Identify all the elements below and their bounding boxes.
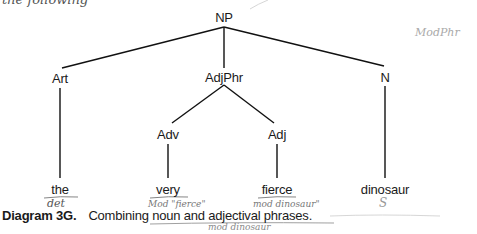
leaf-the: the	[51, 182, 68, 197]
handwritten-s: S	[379, 196, 387, 210]
leaf-very: very	[156, 182, 180, 197]
node-adjphr: AdjPhr	[205, 70, 243, 85]
node-n: N	[380, 70, 389, 85]
caption-label: Diagram 3G.	[2, 208, 76, 223]
caption-text: Combining noun and adjectival phrases.	[88, 208, 312, 223]
syntax-tree-diagram: the following NP Art AdjPhr N Adv Adj th…	[0, 0, 477, 234]
edge-np-art	[62, 27, 224, 68]
edge-adjphr-adv	[172, 85, 224, 123]
underline-very	[150, 197, 188, 198]
node-np: NP	[215, 10, 233, 25]
node-art: Art	[52, 71, 68, 86]
leaf-dinosaur: dinosaur	[361, 182, 409, 197]
handwritten-corner-note: ModPhr	[415, 26, 460, 39]
figure-caption: Diagram 3G.Combining noun and adjectival…	[2, 208, 312, 223]
leaf-fierce: fierce	[262, 182, 293, 197]
node-adj: Adj	[268, 127, 286, 142]
underline-fierce	[258, 197, 296, 198]
edge-adjphr-adj	[224, 85, 274, 123]
node-adv: Adv	[157, 127, 179, 142]
handwritten-under-caption: mod dinosaur	[208, 222, 271, 232]
edge-np-n	[224, 27, 384, 66]
faint-margin-line	[330, 215, 440, 216]
tree-edges	[0, 0, 477, 234]
faint-pencil-stroke	[250, 0, 268, 9]
